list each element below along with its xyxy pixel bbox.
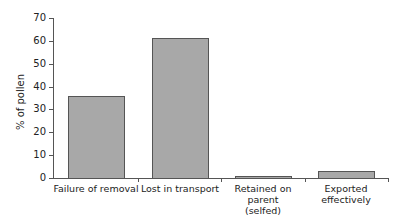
y-tick [49, 18, 53, 19]
y-axis [53, 18, 54, 178]
y-tick [49, 178, 53, 179]
x-tick [221, 178, 222, 182]
x-label-line: Retained on parent [218, 183, 308, 205]
x-label-exported-effectively: Exported effectively [301, 183, 391, 205]
y-tick [49, 155, 53, 156]
x-label-line: (selfed) [218, 205, 308, 216]
x-tick [305, 178, 306, 182]
y-tick-label: 40 [24, 82, 46, 92]
x-label-failure-of-removal: Failure of removal [51, 183, 141, 194]
y-tick-label: 50 [24, 59, 46, 69]
y-tick [49, 87, 53, 88]
y-tick-label: 10 [24, 150, 46, 160]
bar-failure-of-removal [68, 96, 125, 179]
bar-chart: % of pollen 0 10 20 30 40 50 60 70 Failu… [0, 0, 403, 224]
x-label-line: effectively [301, 194, 391, 205]
bar-retained-on-parent [235, 176, 292, 179]
y-tick [49, 109, 53, 110]
y-tick-label: 20 [24, 127, 46, 137]
y-tick [49, 132, 53, 133]
y-tick [49, 64, 53, 65]
y-tick-label: 30 [24, 104, 46, 114]
x-label-line: Lost in transport [141, 183, 219, 194]
y-tick-label: 60 [24, 36, 46, 46]
x-label-line: Failure of removal [53, 183, 138, 194]
x-label-line: Exported [301, 183, 391, 194]
y-tick-label: 70 [24, 13, 46, 23]
bar-exported-effectively [318, 171, 375, 179]
x-label-retained-on-parent: Retained on parent (selfed) [218, 183, 308, 216]
y-tick [49, 41, 53, 42]
x-tick [138, 178, 139, 182]
bar-lost-in-transport [152, 38, 209, 179]
x-label-lost-in-transport: Lost in transport [135, 183, 225, 194]
y-tick-label: 0 [24, 173, 46, 183]
x-tick [388, 178, 389, 182]
